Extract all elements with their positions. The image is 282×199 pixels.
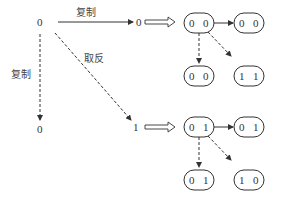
top-main-pill: 0 0 [184, 13, 214, 33]
bottom-diag-pill: 1 0 [234, 170, 264, 190]
copy-label-left: 复制 [11, 68, 31, 80]
svg-text:1: 1 [239, 70, 245, 82]
svg-text:1: 1 [239, 174, 245, 186]
double-arrow-bottom-icon [145, 122, 175, 132]
svg-text:0: 0 [189, 70, 195, 82]
invert-label: 取反 [84, 53, 104, 64]
svg-text:0: 0 [239, 121, 245, 133]
svg-text:0: 0 [203, 70, 209, 82]
top-diag-pill: 1 1 [234, 66, 264, 86]
svg-text:0: 0 [189, 17, 195, 29]
svg-text:0: 0 [239, 17, 245, 29]
bottom-diag-arrow [208, 136, 231, 160]
top-right-pill: 0 0 [234, 13, 264, 33]
invert-arrow [55, 33, 131, 120]
top-diag-arrow [208, 32, 231, 56]
copied-node-right: 0 [136, 16, 142, 28]
bottom-right-pill: 0 1 [234, 117, 264, 137]
svg-text:0: 0 [253, 174, 259, 186]
svg-text:1: 1 [203, 121, 209, 133]
svg-text:1: 1 [253, 70, 259, 82]
svg-text:1: 1 [203, 174, 209, 186]
copy-label-top: 复制 [76, 6, 96, 18]
svg-text:0: 0 [189, 121, 195, 133]
top-down-pill: 0 0 [184, 66, 214, 86]
root-node: 0 [37, 16, 43, 28]
svg-text:0: 0 [253, 17, 259, 29]
bottom-down-pill: 0 1 [184, 170, 214, 190]
inverted-node: 1 [133, 121, 139, 133]
svg-text:0: 0 [203, 17, 209, 29]
copied-node-down: 0 [37, 123, 43, 135]
svg-text:1: 1 [253, 121, 259, 133]
svg-text:0: 0 [189, 174, 195, 186]
double-arrow-top-icon [145, 17, 175, 27]
bottom-main-pill: 0 1 [184, 117, 214, 137]
diagram-canvas: 0 复制 0 复制 0 取反 1 0 0 0 0 0 0 1 1 0 1 [0, 0, 282, 199]
